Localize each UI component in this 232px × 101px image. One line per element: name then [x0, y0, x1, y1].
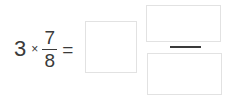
- answer-fraction-bar: [170, 46, 201, 48]
- multiplication-operator: ×: [31, 43, 38, 55]
- answer-fraction-denominator-box[interactable]: [147, 53, 222, 95]
- fraction-problem-worksheet: 3 × 7 8 =: [0, 0, 232, 101]
- answer-fraction-numerator-box[interactable]: [146, 5, 221, 42]
- whole-number-operand: 3: [14, 38, 26, 60]
- fraction-numerator: 7: [43, 28, 56, 48]
- math-expression: 3 × 7 8 =: [14, 30, 73, 68]
- answer-whole-number-box[interactable]: [85, 21, 137, 73]
- equals-operator: =: [62, 40, 73, 59]
- fraction-denominator: 8: [43, 51, 56, 71]
- fraction-operand: 7 8: [42, 28, 57, 71]
